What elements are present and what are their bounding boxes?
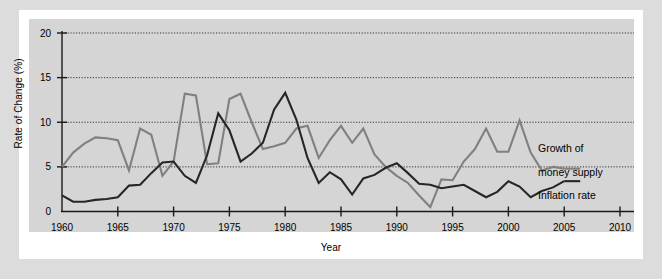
x-tick-label-1985: 1985: [330, 222, 353, 233]
money-supply-label-line1: Growth of: [538, 142, 603, 154]
x-tick-label-1995: 1995: [441, 222, 464, 233]
x-tick-label-1960: 1960: [51, 222, 74, 233]
y-tick-label-20: 20: [40, 28, 52, 39]
money-supply-label-line2: money supply: [538, 166, 603, 178]
y-axis-title: Rate of Change (%): [13, 49, 24, 159]
series-line-inflation: [62, 93, 564, 202]
y-tick-labels: 05101520: [40, 28, 52, 218]
x-axis-title: Year: [0, 242, 662, 253]
x-tick-label-2010: 2010: [609, 222, 632, 233]
money-supply-series-label: Growth of money supply: [538, 130, 603, 190]
x-tick-label-1975: 1975: [218, 222, 241, 233]
x-tick-label-2000: 2000: [497, 222, 520, 233]
x-tick-label-1980: 1980: [274, 222, 297, 233]
x-tick-label-1990: 1990: [386, 222, 409, 233]
x-tick-labels: 1960196519701975198019851990199520002005…: [51, 222, 632, 233]
y-tick-label-10: 10: [40, 117, 52, 128]
y-tick-label-5: 5: [45, 161, 51, 172]
series-line-money-supply: [62, 94, 564, 207]
figure-root: 05101520 1960196519701975198019851990199…: [0, 0, 662, 279]
x-tick-label-1965: 1965: [107, 222, 130, 233]
y-tick-label-15: 15: [40, 72, 52, 83]
inflation-series-label: Inflation rate: [538, 189, 596, 201]
x-tick-label-2005: 2005: [553, 222, 576, 233]
y-tick-label-0: 0: [45, 206, 51, 217]
series-lines: [62, 93, 580, 207]
x-tick-label-1970: 1970: [162, 222, 185, 233]
